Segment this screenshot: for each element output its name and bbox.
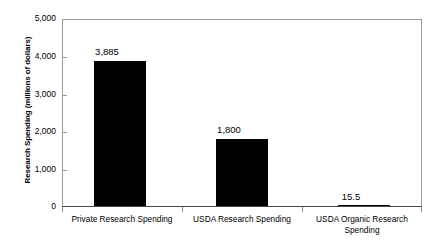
y-tick-label-0: 0 xyxy=(22,202,56,211)
y-tick-label-5000: 5,000 xyxy=(22,14,56,23)
bar-value-label-private-research-spending: 3,885 xyxy=(63,46,151,57)
x-category-label-usda-organic-research-spending: USDA Organic Research Spending xyxy=(302,214,422,235)
bar-value-label-usda-research-spending: 1,800 xyxy=(185,124,273,135)
x-category-label-line1: USDA Organic Research xyxy=(302,214,422,225)
x-axis-line xyxy=(62,206,422,207)
bar-private-research-spending xyxy=(94,61,146,206)
y-axis-tick-labels: 5,000 4,000 3,000 2,000 1,000 0 xyxy=(22,0,56,248)
y-tick-label-2000: 2,000 xyxy=(22,127,56,136)
y-tick-mark-1000 xyxy=(63,170,67,171)
y-tick-mark-2000 xyxy=(63,132,67,133)
x-category-label-line1: Private Research Spending xyxy=(62,214,182,225)
bar-chart: Research Spending (millions of dollars) … xyxy=(0,0,437,248)
y-tick-label-1000: 1,000 xyxy=(22,165,56,174)
y-tick-mark-3000 xyxy=(63,95,67,96)
x-tick-mark-end xyxy=(421,207,422,212)
bar-value-label-usda-organic-research-spending: 15.5 xyxy=(307,191,395,202)
y-tick-mark-4000 xyxy=(63,57,67,58)
x-category-label-private-research-spending: Private Research Spending xyxy=(62,214,182,225)
bar-usda-research-spending xyxy=(216,139,268,206)
y-tick-label-4000: 4,000 xyxy=(22,52,56,61)
x-tick-mark-start xyxy=(62,207,63,212)
x-category-label-usda-research-spending: USDA Research Spending xyxy=(182,214,302,225)
x-tick-mark-1 xyxy=(182,207,183,212)
x-category-label-line2: Spending xyxy=(302,225,422,236)
x-category-label-line1: USDA Research Spending xyxy=(182,214,302,225)
y-tick-label-3000: 3,000 xyxy=(22,90,56,99)
x-tick-mark-2 xyxy=(302,207,303,212)
